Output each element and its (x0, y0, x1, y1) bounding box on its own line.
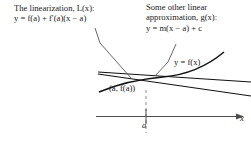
x-axis-label: x (240, 113, 244, 123)
leader-line-L-note (95, 28, 131, 78)
linearization-figure: The linearization, L(x): y = f(a) + f′(a… (0, 0, 251, 142)
tangent-point-label: (a, f(a)) (109, 83, 135, 93)
other-approximation-note-line1: Some other linear (146, 2, 217, 12)
other-approximation-note: Some other linear approximation, g(x): y… (146, 2, 217, 33)
linearization-note-line2: y = f(a) + f′(a)(x − a) (14, 13, 94, 23)
linearization-note: The linearization, L(x): y = f(a) + f′(a… (14, 3, 94, 24)
curve-label: y = f(x) (174, 57, 200, 67)
other-approximation-note-line3: y = m(x − a) + c (146, 23, 217, 33)
other-approximation-note-line2: approximation, g(x): (146, 12, 217, 22)
linearization-note-line1: The linearization, L(x): (14, 3, 94, 13)
x-tick-label-a: a (142, 120, 146, 130)
leader-line-g-note (155, 44, 176, 76)
